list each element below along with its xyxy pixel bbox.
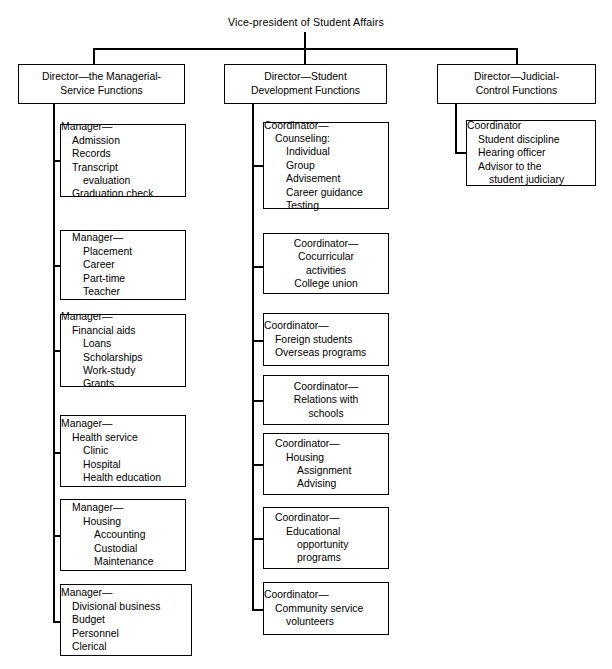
unit-line: Manager—: [61, 586, 191, 599]
director-box-student-development: Director—Student Development Functions: [224, 64, 387, 104]
director-stem-right: [516, 48, 518, 65]
unit-line: Personnel: [61, 627, 191, 640]
unit-line: Foreign students: [264, 333, 388, 346]
unit-line: Hospital: [61, 458, 185, 471]
unit-line: Coordinator—: [264, 588, 388, 601]
unit-line: Counseling:: [264, 132, 388, 145]
unit-line: Assignment: [264, 464, 388, 477]
unit-line: Advisor to the: [467, 160, 595, 173]
unit-line: volunteers: [264, 615, 388, 628]
unit-line: Clerical: [61, 640, 191, 653]
unit-box-student-discipline: Coordinator Student discipline Hearing o…: [466, 120, 596, 186]
unit-line: Advising: [264, 477, 388, 490]
unit-line: Cocurricular: [264, 250, 388, 263]
unit-line: Individual: [264, 145, 388, 158]
unit-line: Manager—: [61, 231, 185, 244]
unit-line: Manager—: [61, 120, 185, 133]
unit-line: Career guidance: [264, 186, 388, 199]
unit-line: Student discipline: [467, 133, 595, 146]
spine-right: [455, 104, 457, 153]
unit-line: Coordinator—: [264, 237, 388, 250]
unit-line: Manager—: [61, 310, 185, 323]
org-chart: Vice-president of Student Affairs Direct…: [0, 0, 612, 669]
unit-line: Health service: [61, 431, 185, 444]
unit-box-counseling: Coordinator— Counseling: Individual Grou…: [263, 122, 389, 209]
director-line: Director—Judicial-: [444, 70, 589, 83]
spine-left: [53, 104, 55, 622]
unit-box-educational-opportunity: Coordinator— Educational opportunity pro…: [263, 507, 389, 569]
unit-box-relations-with-schools: Coordinator— Relations with schools: [263, 375, 389, 425]
unit-line: Overseas programs: [264, 346, 388, 359]
director-stem-middle: [304, 48, 306, 65]
director-box-judicial-control: Director—Judicial- Control Functions: [437, 64, 596, 104]
unit-line: Testing: [264, 199, 388, 212]
director-line: Development Functions: [231, 84, 380, 97]
unit-line: Educational: [264, 525, 388, 538]
unit-line: Coordinator—: [264, 380, 388, 393]
unit-box-placement-career: Manager— Placement Career Part-time Teac…: [60, 230, 186, 300]
root-node-label: Vice-president of Student Affairs: [0, 16, 612, 29]
unit-box-admission-records: Manager— Admission Records Transcript ev…: [60, 124, 186, 197]
unit-line: Admission: [61, 134, 185, 147]
unit-line: Career: [61, 258, 185, 271]
unit-line: Relations with: [264, 393, 388, 406]
unit-line: Maintenance: [61, 555, 185, 568]
unit-line: Teacher: [61, 285, 185, 298]
unit-line: Advisement: [264, 172, 388, 185]
unit-line: Group: [264, 159, 388, 172]
unit-line: Manager—: [61, 501, 185, 514]
unit-line: College union: [264, 277, 388, 290]
unit-box-health-service: Manager— Health service Clinic Hospital …: [60, 415, 186, 487]
unit-line: Work-study: [61, 364, 185, 377]
unit-box-housing-assignment: Coordinator— Housing Assignment Advising: [263, 433, 389, 495]
unit-line: Grants: [61, 377, 185, 390]
unit-line: Community service: [264, 602, 388, 615]
unit-box-housing-accounting: Manager— Housing Accounting Custodial Ma…: [60, 499, 186, 571]
unit-line: programs: [264, 551, 388, 564]
director-line: Control Functions: [444, 84, 589, 97]
unit-line: evaluation: [61, 174, 185, 187]
unit-box-foreign-students: Coordinator— Foreign students Overseas p…: [263, 313, 389, 366]
unit-line: Transcript: [61, 161, 185, 174]
unit-line: Coordinator—: [264, 319, 388, 332]
unit-line: opportunity: [264, 538, 388, 551]
unit-line: Divisional business: [61, 600, 191, 613]
unit-line: Coordinator: [467, 119, 595, 132]
unit-box-community-service: Coordinator— Community service volunteer…: [263, 582, 389, 635]
unit-line: Coordinator—: [264, 119, 388, 132]
unit-line: Coordinator—: [264, 437, 388, 450]
unit-line: Part-time: [61, 272, 185, 285]
unit-line: Records: [61, 147, 185, 160]
unit-line: Loans: [61, 337, 185, 350]
director-line: Service Functions: [25, 84, 178, 97]
unit-box-financial-aids: Manager— Financial aids Loans Scholarshi…: [60, 314, 186, 387]
director-box-managerial-service: Director—the Managerial- Service Functio…: [18, 64, 185, 104]
unit-line: schools: [264, 407, 388, 420]
director-line: Director—Student: [231, 70, 380, 83]
unit-line: Hearing officer: [467, 146, 595, 159]
unit-line: Budget: [61, 613, 191, 626]
unit-line: Graduation check: [61, 187, 185, 200]
unit-line: Coordinator—: [264, 511, 388, 524]
unit-line: Scholarships: [61, 351, 185, 364]
unit-line: Housing: [264, 451, 388, 464]
unit-line: Custodial: [61, 542, 185, 555]
unit-line: Health education: [61, 471, 185, 484]
director-line: Director—the Managerial-: [25, 70, 178, 83]
unit-line: Accounting: [61, 528, 185, 541]
director-stem-left: [93, 48, 95, 65]
unit-line: Clinic: [61, 444, 185, 457]
spine-middle: [252, 104, 254, 609]
root-stem: [304, 32, 306, 49]
unit-line: Placement: [61, 245, 185, 258]
unit-box-divisional-business: Manager— Divisional business Budget Pers…: [60, 584, 192, 656]
unit-line: Housing: [61, 515, 185, 528]
unit-line: student judiciary: [467, 173, 595, 186]
unit-box-cocurricular: Coordinator— Cocurricular activities Col…: [263, 233, 389, 294]
unit-line: Manager—: [61, 417, 185, 430]
unit-line: activities: [264, 264, 388, 277]
unit-line: Financial aids: [61, 324, 185, 337]
